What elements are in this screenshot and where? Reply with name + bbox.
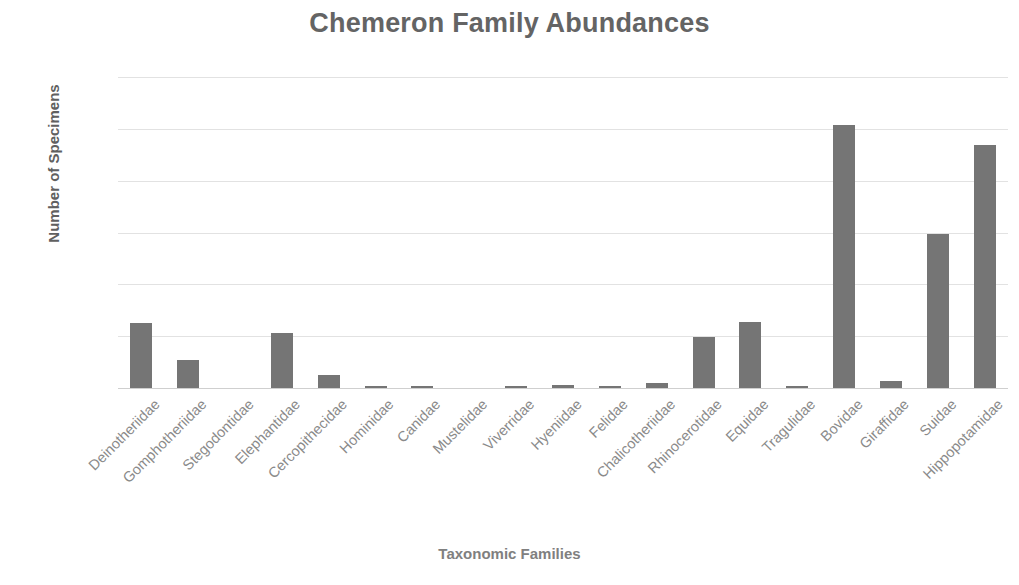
chart-title: Chemeron Family Abundances — [0, 8, 1019, 39]
bar[interactable] — [599, 386, 621, 388]
bar[interactable] — [693, 337, 715, 388]
bar[interactable] — [833, 125, 855, 388]
x-tick-label: Hippopotamidae — [920, 396, 1006, 482]
bar[interactable] — [177, 360, 199, 389]
bar[interactable] — [786, 386, 808, 388]
x-tick-label: Suidae — [916, 396, 959, 439]
x-axis-title: Taxonomic Families — [0, 545, 1019, 562]
bar[interactable] — [271, 333, 293, 388]
chart-container: Chemeron Family Abundances Number of Spe… — [0, 0, 1019, 585]
plot-area — [118, 77, 1008, 388]
gridline-500 — [118, 129, 1008, 130]
gridline-100 — [118, 336, 1008, 337]
bar[interactable] — [739, 322, 761, 388]
x-tick-label: Viverridae — [480, 396, 537, 453]
bar[interactable] — [552, 385, 574, 388]
x-tick-label: Hyeniidae — [527, 396, 584, 453]
gridline-200 — [118, 284, 1008, 285]
bar[interactable] — [365, 386, 387, 388]
x-tick-label: Felidae — [586, 396, 631, 441]
bar[interactable] — [880, 381, 902, 388]
bar[interactable] — [974, 145, 996, 388]
gridline-0 — [118, 388, 1008, 389]
bar[interactable] — [411, 386, 433, 388]
x-axis-tick-labels: DeinotheriidaeGomphotheriidaeStegodontid… — [118, 390, 1008, 540]
bar[interactable] — [318, 375, 340, 388]
gridline-600 — [118, 77, 1008, 78]
bar[interactable] — [927, 234, 949, 388]
gridline-400 — [118, 181, 1008, 182]
bar[interactable] — [646, 383, 668, 388]
gridline-300 — [118, 233, 1008, 234]
bar[interactable] — [505, 386, 527, 388]
x-tick-label: Giraffidae — [857, 396, 913, 452]
x-tick-label: Gomphotheriidae — [120, 396, 210, 486]
bar[interactable] — [130, 323, 152, 388]
